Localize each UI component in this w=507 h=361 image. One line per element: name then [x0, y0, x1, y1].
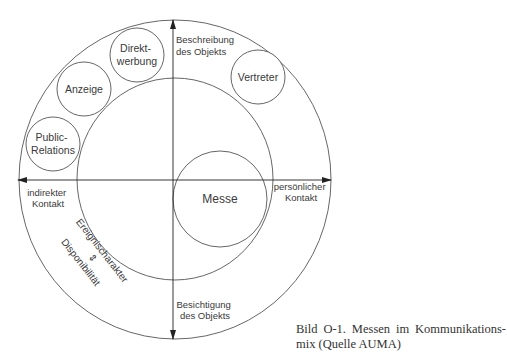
anzeige-label: Anzeige [65, 83, 103, 95]
communication-mix-diagram: Messe Direkt- werbung Anzeige Public- Re… [0, 0, 507, 361]
caption-line-1: Bild O-1. Messen im Kommunikations- [296, 322, 506, 337]
right-axis-label: persönlicher Kontakt [274, 181, 328, 203]
top-axis-label: Beschreibung des Objekts [176, 34, 237, 57]
left-axis-label: indirekter Kontakt [27, 187, 69, 209]
vertreter-label: Vertreter [238, 71, 279, 83]
direktwerbung-label: Direkt- werbung [116, 42, 157, 67]
messe-label: Messe [202, 192, 238, 206]
figure-caption: Bild O-1. Messen im Kommunikations- mix … [296, 322, 506, 352]
diagonal-label-group: Ereignischarakter ⇕ Disponibilität [55, 216, 131, 299]
caption-line-2: mix (Quelle AUMA) [296, 337, 401, 351]
bottom-axis-label: Besichtigung des Objekts [176, 299, 233, 321]
ereignischarakter-label: Ereignischarakter [74, 216, 131, 285]
outer-circle [19, 20, 331, 339]
public-relations-label: Public- Relations [31, 131, 75, 156]
